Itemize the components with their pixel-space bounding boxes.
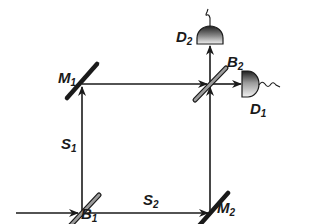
detector-d2 [197,9,223,44]
label-s1: S1 [61,136,77,154]
label-b2: B2 [227,54,243,72]
label-d2: D2 [176,29,192,47]
label-m2: M2 [217,200,235,218]
label-b1: B1 [81,206,97,224]
detector-d1 [242,71,280,97]
label-d1: D1 [250,101,266,119]
label-m1: M1 [58,70,76,88]
label-s2: S2 [143,192,159,210]
